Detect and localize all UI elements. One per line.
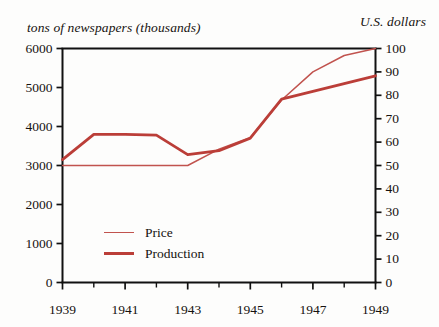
y-left-tick-label: 2000 (26, 198, 53, 212)
y-right-tick-label: 60 (386, 135, 400, 149)
x-tick-label: 1949 (362, 303, 389, 317)
y-left-tick-label: 0 (46, 276, 53, 290)
y-left-tick-label: 5000 (26, 81, 53, 95)
x-tick-label: 1945 (237, 303, 264, 317)
y-right-tick-label: 10 (386, 252, 400, 266)
series-line-price (63, 49, 376, 166)
legend-swatch-production-icon (104, 252, 134, 255)
x-tick-label: 1943 (174, 303, 201, 317)
chart-figure: tons of newspapers (thousands) U.S. doll… (0, 0, 439, 327)
y-right-tick-label: 30 (386, 206, 400, 220)
y-left-tick-label: 6000 (26, 42, 53, 56)
x-axis-ticks (63, 283, 376, 290)
chart-legend: Price Production (104, 222, 204, 264)
y-right-tick-label: 20 (386, 229, 400, 243)
legend-item-production: Production (104, 243, 204, 264)
y-right-tick-label: 70 (386, 112, 400, 126)
series-line-production (63, 76, 376, 160)
legend-label-production: Production (145, 246, 204, 262)
y-left-tick-label: 3000 (26, 159, 53, 173)
y-right-tick-label: 80 (386, 89, 400, 103)
y-right-tick-label: 50 (386, 159, 400, 173)
y-right-tick-label: 90 (386, 65, 400, 79)
plot-area (0, 0, 439, 327)
x-tick-label: 1939 (49, 303, 76, 317)
x-tick-label: 1947 (299, 303, 326, 317)
legend-label-price: Price (145, 225, 173, 241)
y-left-tick-label: 4000 (26, 120, 53, 134)
legend-swatch-price-icon (104, 232, 134, 233)
y-right-tick-label: 100 (386, 42, 406, 56)
y-right-tick-label: 40 (386, 182, 400, 196)
legend-item-price: Price (104, 222, 204, 243)
x-tick-label: 1941 (112, 303, 139, 317)
data-series-group (63, 49, 376, 166)
y-right-tick-label: 0 (386, 276, 393, 290)
y-left-tick-label: 1000 (26, 237, 53, 251)
